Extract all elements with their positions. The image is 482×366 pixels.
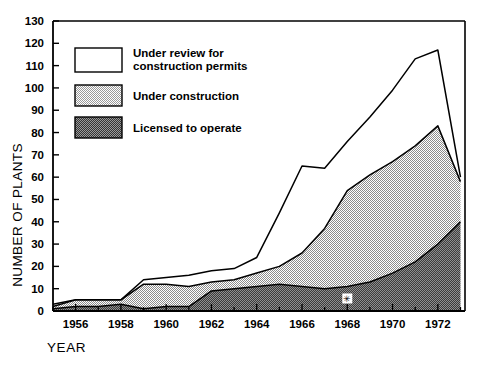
y-tick-label: 30 <box>31 238 44 250</box>
legend-swatch-licensed <box>75 117 122 138</box>
y-tick-label: 110 <box>25 60 44 72</box>
x-tick-label: 1960 <box>153 318 179 330</box>
legend-swatch-under-construction <box>75 85 122 106</box>
data-point-marker: ✳ <box>342 293 352 303</box>
y-tick-label: 60 <box>31 171 44 183</box>
marker-glyph: ✳ <box>343 294 351 304</box>
x-tick-label: 1962 <box>199 318 225 330</box>
y-tick-label: 80 <box>31 127 44 139</box>
y-tick-label: 40 <box>31 216 44 228</box>
y-tick-label: 20 <box>31 260 44 272</box>
x-tick-label: 1968 <box>334 318 360 330</box>
x-tick-label: 1972 <box>425 318 451 330</box>
y-tick-label: 90 <box>31 104 44 116</box>
y-tick-label: 0 <box>38 305 44 317</box>
chart-legend: Under review for construction permits Un… <box>75 47 247 138</box>
x-axis-title: YEAR <box>47 340 86 355</box>
x-tick-label: 1958 <box>108 318 134 330</box>
x-tick-label: 1964 <box>244 318 270 330</box>
y-tick-label: 100 <box>25 82 44 94</box>
legend-label-under-review-line2: construction permits <box>133 60 247 72</box>
x-tick-label: 1970 <box>380 318 406 330</box>
x-axis-tick-labels: 195619581960196219641966196819701972 <box>63 318 451 330</box>
legend-label-licensed: Licensed to operate <box>133 122 242 134</box>
y-axis-title: NUMBER OF PLANTS <box>10 143 25 287</box>
legend-label-under-construction: Under construction <box>133 90 239 102</box>
y-tick-label: 10 <box>31 283 44 295</box>
x-tick-label: 1966 <box>289 318 315 330</box>
y-tick-label: 120 <box>25 37 44 49</box>
y-tick-label: 50 <box>31 193 44 205</box>
x-tick-label: 1956 <box>63 318 89 330</box>
legend-swatch-under-review <box>75 48 122 72</box>
legend-label-under-review-line1: Under review for <box>133 47 224 59</box>
stacked-area-chart: 0102030405060708090100110120130 19561958… <box>0 0 482 366</box>
chart-root: 0102030405060708090100110120130 19561958… <box>0 0 482 366</box>
y-tick-label: 130 <box>25 15 44 27</box>
y-tick-label: 70 <box>31 149 44 161</box>
